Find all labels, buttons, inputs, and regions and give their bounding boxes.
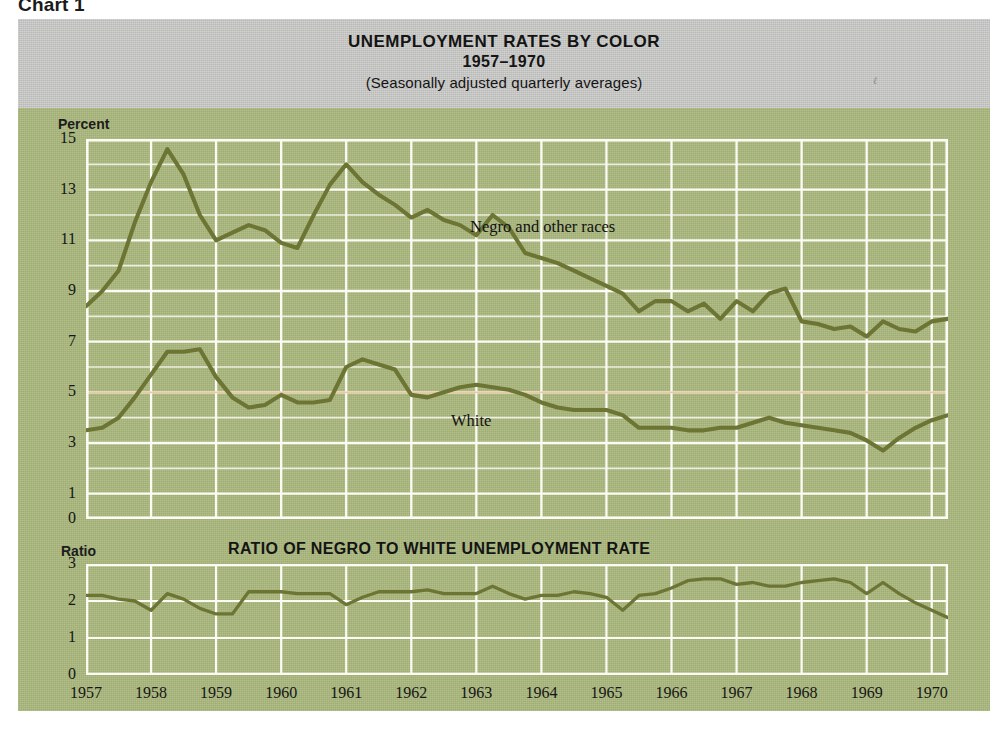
ratio-y-tick-label: 3 xyxy=(34,554,76,572)
chart-page: Chart 1 UNEMPLOYMENT RATES BY COLOR 1957… xyxy=(0,0,1008,737)
x-axis-tick-label: 1961 xyxy=(316,684,376,702)
ratio-plot-svg xyxy=(86,564,948,675)
ratio-y-tick-label: 2 xyxy=(34,591,76,609)
main-y-tick-label: 0 xyxy=(34,509,76,527)
x-axis-tick-label: 1957 xyxy=(56,684,116,702)
x-axis-tick-label: 1970 xyxy=(902,684,962,702)
x-axis-tick-label: 1964 xyxy=(511,684,571,702)
series-label-white: White xyxy=(451,411,491,431)
x-axis-tick-label: 1965 xyxy=(576,684,636,702)
series-label-negro: Negro and other races xyxy=(470,217,615,237)
x-axis-tick-label: 1959 xyxy=(186,684,246,702)
x-axis-tick-label: 1966 xyxy=(642,684,702,702)
figure-container: UNEMPLOYMENT RATES BY COLOR 1957–1970 (S… xyxy=(18,19,990,711)
x-axis-tick-label: 1963 xyxy=(446,684,506,702)
x-axis-tick-label: 1962 xyxy=(381,684,441,702)
x-axis-tick-label: 1960 xyxy=(251,684,311,702)
main-y-tick-label: 13 xyxy=(34,180,76,198)
main-y-tick-label: 11 xyxy=(34,230,76,248)
x-axis-tick-label: 1967 xyxy=(707,684,767,702)
main-plot-svg xyxy=(86,139,948,519)
chart-number-label: Chart 1 xyxy=(18,0,85,16)
main-plot-area xyxy=(86,139,948,519)
chart-title-line-2: 1957–1970 xyxy=(18,52,990,72)
main-y-tick-label: 9 xyxy=(34,281,76,299)
x-axis-tick-label: 1958 xyxy=(121,684,181,702)
main-y-tick-label: 5 xyxy=(34,382,76,400)
chart-title-line-3: (Seasonally adjusted quarterly averages) xyxy=(18,72,990,93)
ratio-plot-area xyxy=(86,564,948,675)
x-axis-tick-label: 1968 xyxy=(772,684,832,702)
main-y-tick-label: 1 xyxy=(34,484,76,502)
ratio-y-tick-label: 0 xyxy=(34,665,76,683)
ink-smudge-mark: ℓ xyxy=(873,75,887,84)
main-y-tick-label: 3 xyxy=(34,433,76,451)
title-band: UNEMPLOYMENT RATES BY COLOR 1957–1970 (S… xyxy=(18,19,990,108)
ratio-y-tick-label: 1 xyxy=(34,628,76,646)
main-y-tick-label: 15 xyxy=(34,129,76,147)
title-block: UNEMPLOYMENT RATES BY COLOR 1957–1970 (S… xyxy=(18,32,990,93)
ratio-panel-title: RATIO OF NEGRO TO WHITE UNEMPLOYMENT RAT… xyxy=(228,540,650,558)
chart-title-line-1: UNEMPLOYMENT RATES BY COLOR xyxy=(18,32,990,52)
main-y-tick-label: 7 xyxy=(34,332,76,350)
x-axis-tick-label: 1969 xyxy=(837,684,897,702)
